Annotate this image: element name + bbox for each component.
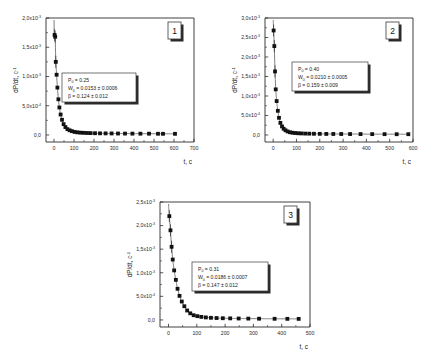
- data-point: [370, 132, 374, 136]
- y-tick-label: 5,0x10-4: [22, 103, 41, 109]
- data-point: [312, 132, 316, 136]
- data-point: [221, 316, 225, 320]
- data-point: [82, 131, 86, 135]
- data-point: [339, 132, 343, 136]
- data-point: [273, 317, 277, 321]
- chart-panel-1: 0,05,0x10-41,0x10-31,5x10-32,0x10-301002…: [0, 0, 218, 180]
- data-point: [139, 132, 143, 136]
- data-point: [116, 132, 120, 136]
- annotation-beta: β = 0.124 ± 0.012: [68, 93, 108, 99]
- x-axis-title: t, c: [299, 343, 308, 350]
- data-point: [257, 317, 261, 321]
- chart-panel-2: 0,05,0x10-41,0x10-31,5x10-32,0x10-32,5x1…: [220, 0, 437, 180]
- data-point: [161, 132, 165, 136]
- annotation-beta: β = 0.159 ± 0.009: [298, 82, 338, 88]
- data-point: [324, 132, 328, 136]
- x-tick-label: 300: [110, 145, 119, 151]
- data-point: [85, 131, 89, 135]
- x-tick-label: 0: [53, 145, 56, 151]
- x-tick-label: 100: [192, 330, 201, 336]
- data-point: [59, 113, 63, 117]
- x-tick-label: 200: [221, 330, 230, 336]
- data-point: [273, 70, 277, 74]
- data-point: [156, 132, 160, 136]
- data-point: [169, 228, 173, 232]
- data-point: [131, 132, 135, 136]
- data-point: [348, 132, 352, 136]
- panel-badge-label: 3: [288, 210, 293, 220]
- x-tick-label: 0: [272, 145, 275, 151]
- y-tick-label: 1,0x10-3: [136, 270, 155, 276]
- x-tick-label: 600: [170, 145, 179, 151]
- data-point: [192, 313, 196, 317]
- y-tick-label: 3,0x10-3: [241, 15, 260, 21]
- data-point: [285, 317, 289, 321]
- data-point: [55, 73, 59, 77]
- data-point: [395, 132, 399, 136]
- data-point: [359, 132, 363, 136]
- x-tick-label: 300: [339, 145, 348, 151]
- data-point: [54, 60, 58, 64]
- x-tick-label: 400: [362, 145, 371, 151]
- x-tick-label: 200: [315, 145, 324, 151]
- data-point: [204, 316, 208, 320]
- data-point: [170, 245, 174, 249]
- x-tick-label: 400: [130, 145, 139, 151]
- data-point: [296, 131, 300, 135]
- data-point: [53, 35, 57, 39]
- data-point: [406, 132, 410, 136]
- data-point: [182, 304, 186, 308]
- y-tick-label: 2,5x10-3: [241, 34, 260, 40]
- panel-badge-label: 1: [172, 26, 177, 36]
- data-point: [209, 316, 213, 320]
- x-tick-label: 700: [190, 145, 199, 151]
- y-tick-label: 1,5x10-3: [241, 73, 260, 79]
- x-axis-title: t, c: [402, 158, 411, 165]
- data-point: [167, 214, 171, 218]
- x-tick-label: 300: [249, 330, 258, 336]
- y-tick-label: 1,5x10-3: [22, 44, 41, 50]
- annotation-beta: β = 0.147 ± 0.012: [198, 282, 238, 288]
- data-point: [237, 317, 241, 321]
- data-point: [228, 316, 232, 320]
- data-point: [188, 311, 192, 315]
- data-point: [307, 132, 311, 136]
- data-point: [300, 132, 304, 136]
- data-point: [174, 278, 178, 282]
- x-tick-label: 500: [306, 330, 315, 336]
- data-point: [123, 132, 127, 136]
- y-tick-label: 0,0: [148, 317, 155, 323]
- y-tick-label: 2,0x10-3: [241, 54, 260, 60]
- data-point: [297, 317, 301, 321]
- data-point: [89, 131, 93, 135]
- data-point: [56, 86, 60, 90]
- y-tick-label: 5,0x10-4: [136, 293, 155, 299]
- x-tick-label: 100: [70, 145, 79, 151]
- panel-badge-label: 2: [390, 26, 395, 36]
- y-tick-label: 1,0x10-3: [22, 73, 41, 79]
- data-point: [215, 316, 219, 320]
- data-point: [277, 116, 281, 120]
- y-tick-label: 1,0x10-3: [241, 93, 260, 99]
- x-tick-label: 0: [167, 330, 170, 336]
- data-point: [57, 97, 61, 101]
- x-tick-label: 500: [150, 145, 159, 151]
- data-point: [172, 269, 176, 273]
- x-tick-label: 500: [385, 145, 394, 151]
- x-tick-label: 400: [277, 330, 286, 336]
- data-point: [195, 314, 199, 318]
- y-tick-label: 2,0x10-3: [22, 15, 41, 21]
- data-point: [199, 315, 203, 319]
- panel-2-svg: 0,05,0x10-41,0x10-31,5x10-32,0x10-32,5x1…: [220, 0, 437, 180]
- data-point: [180, 300, 184, 304]
- data-point: [383, 132, 387, 136]
- x-axis-title: t, c: [183, 158, 192, 165]
- panel-1-svg: 0,05,0x10-41,0x10-31,5x10-32,0x10-301002…: [0, 0, 218, 180]
- data-point: [303, 132, 307, 136]
- y-tick-label: 2,0x10-3: [136, 222, 155, 228]
- data-point: [272, 44, 276, 48]
- data-point: [176, 287, 180, 291]
- data-point: [274, 87, 278, 91]
- y-tick-label: 2,5x10-3: [136, 199, 155, 205]
- x-tick-label: 100: [292, 145, 301, 151]
